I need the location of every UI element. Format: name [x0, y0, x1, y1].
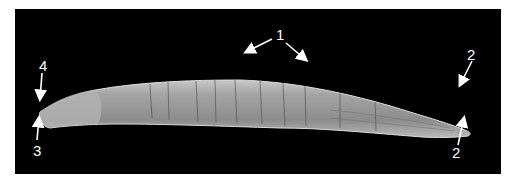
label-2-dorsal: 2 [467, 47, 475, 62]
nematode-body [39, 80, 470, 138]
label-2-ventral: 2 [452, 145, 460, 160]
arrow-group-tip [37, 73, 42, 140]
nematode-specimen [0, 0, 517, 183]
head-region [39, 90, 101, 128]
label-4: 4 [39, 58, 47, 73]
label-1: 1 [276, 27, 284, 42]
label-3: 3 [33, 143, 41, 158]
